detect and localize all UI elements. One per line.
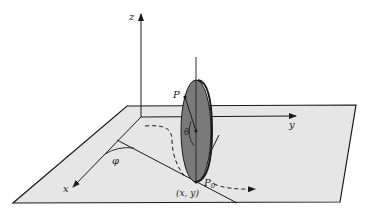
- theta-label: θ: [184, 127, 190, 137]
- rolling-disk-diagram: z y x φ P θ (x, y) P0: [0, 0, 367, 217]
- x-axis-label: x: [63, 183, 69, 194]
- disk-center: [194, 129, 197, 132]
- point-p: [183, 95, 186, 98]
- y-axis-label: y: [288, 119, 295, 130]
- phi-label: φ: [112, 155, 119, 166]
- contact-point: [194, 180, 197, 183]
- z-axis-label: z: [128, 11, 135, 22]
- contact-label: (x, y): [176, 188, 199, 198]
- point-p-label: P: [172, 89, 180, 100]
